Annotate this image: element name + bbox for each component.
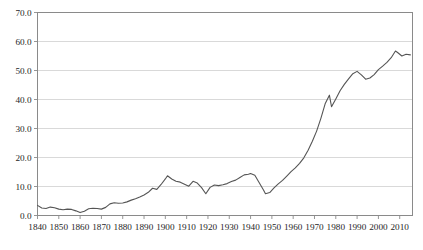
y-axis-labels-group: 0.010.020.030.040.050.060.070.0 (15, 8, 31, 221)
x-axis-tick-label: 1930 (220, 222, 239, 232)
x-axis-tick-label: 1960 (284, 222, 303, 232)
gridlines-group (38, 42, 413, 216)
data-series-group (38, 51, 411, 213)
x-axis-tick-label: 2000 (369, 222, 388, 232)
plot-frame (38, 13, 413, 216)
x-axis-tick-label: 1880 (114, 222, 133, 232)
x-axis-tick-label: 1900 (156, 222, 175, 232)
y-axis-tick-label: 20.0 (15, 153, 31, 163)
chart-canvas: 0.010.020.030.040.050.060.070.0 18401850… (0, 0, 423, 250)
x-axis-ticks-group (38, 216, 400, 220)
x-axis-tick-label: 1850 (50, 222, 69, 232)
data-line-series-1 (38, 51, 411, 213)
x-axis-tick-label: 1940 (241, 222, 260, 232)
x-axis-tick-label: 1910 (177, 222, 196, 232)
x-axis-tick-label: 1870 (92, 222, 111, 232)
x-axis-tick-label: 1890 (135, 222, 154, 232)
x-axis-tick-label: 1920 (199, 222, 218, 232)
y-axis-tick-label: 30.0 (15, 124, 31, 134)
axes-border (38, 13, 413, 216)
x-axis-tick-label: 1950 (263, 222, 282, 232)
x-axis-tick-label: 2010 (391, 222, 410, 232)
y-axis-tick-label: 70.0 (15, 8, 31, 18)
y-axis-ticks-group (34, 13, 38, 216)
y-axis-tick-label: 60.0 (15, 37, 31, 47)
x-axis-tick-label: 1980 (327, 222, 346, 232)
y-axis-tick-label: 0.0 (20, 211, 32, 221)
x-axis-tick-label: 1840 (28, 222, 47, 232)
y-axis-tick-label: 40.0 (15, 95, 31, 105)
x-axis-labels-group: 1840185018601870188018901900191019201930… (28, 222, 409, 232)
y-axis-tick-label: 10.0 (15, 182, 31, 192)
x-axis-tick-label: 1860 (71, 222, 90, 232)
x-axis-tick-label: 1970 (305, 222, 324, 232)
y-axis-tick-label: 50.0 (15, 66, 31, 76)
line-chart: 0.010.020.030.040.050.060.070.0 18401850… (0, 0, 423, 250)
x-axis-tick-label: 1990 (348, 222, 367, 232)
